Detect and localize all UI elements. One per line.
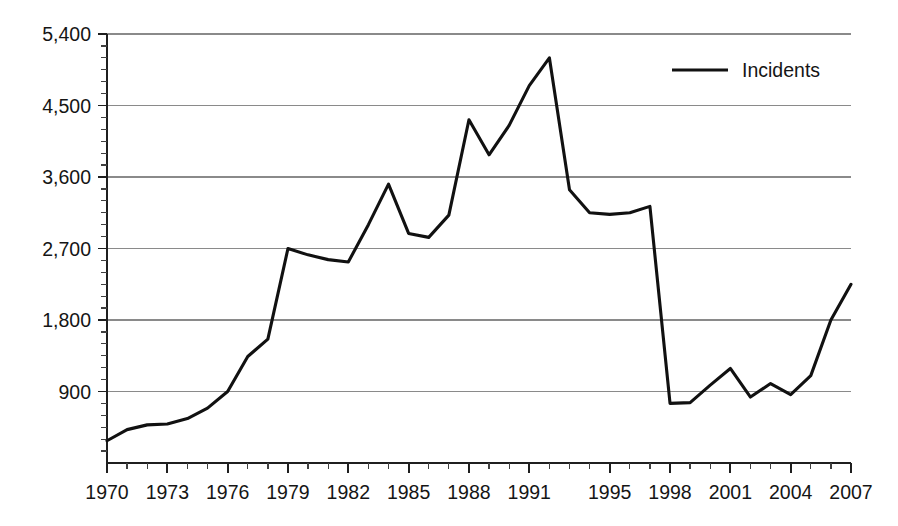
y-axis-label-5400: 5,400 <box>42 23 91 45</box>
legend-label-incidents: Incidents <box>742 59 820 81</box>
x-axis-label-2007: 2007 <box>829 481 872 503</box>
x-axis-label-1998: 1998 <box>648 481 691 503</box>
y-axis-label-1800: 1,800 <box>42 309 91 331</box>
chart-legend: Incidents <box>672 59 820 81</box>
x-axis-label-1985: 1985 <box>387 481 431 503</box>
x-axis-label-1982: 1982 <box>327 481 370 503</box>
y-axis-ticks <box>98 34 107 451</box>
x-axis-ticks <box>107 463 851 473</box>
x-axis-label-1988: 1988 <box>447 481 490 503</box>
x-axis-label-1970: 1970 <box>85 481 129 503</box>
y-axis-label-900: 900 <box>58 381 91 403</box>
x-axis-label-1991: 1991 <box>508 481 551 503</box>
incidents-line-chart: 9001,8002,7003,6004,5005,400 19701973197… <box>0 0 898 526</box>
series-line-incidents <box>107 58 851 441</box>
y-axis-label-3600: 3,600 <box>42 166 91 188</box>
x-axis-label-1979: 1979 <box>266 481 309 503</box>
chart-container: 9001,8002,7003,6004,5005,400 19701973197… <box>0 0 898 526</box>
data-series-group <box>107 58 851 441</box>
x-axis-label-1995: 1995 <box>588 481 632 503</box>
gridlines <box>107 34 851 392</box>
x-axis-label-1973: 1973 <box>146 481 189 503</box>
y-axis-label-2700: 2,700 <box>42 238 91 260</box>
y-axis-label-4500: 4,500 <box>42 95 91 117</box>
x-axis-label-2004: 2004 <box>769 481 813 503</box>
x-axis-label-2001: 2001 <box>709 481 752 503</box>
x-axis-label-1976: 1976 <box>206 481 249 503</box>
y-axis-tick-labels: 9001,8002,7003,6004,5005,400 <box>42 23 91 403</box>
x-axis-tick-labels: 1970197319761979198219851988199119951998… <box>85 481 872 503</box>
